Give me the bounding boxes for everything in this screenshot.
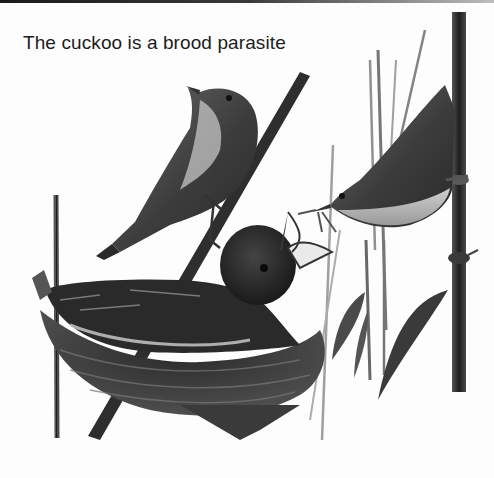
caption-text: The cuckoo is a brood parasite (23, 32, 286, 54)
left-reed (56, 195, 57, 438)
reed-warbler-perched (96, 86, 258, 260)
background-reeds (310, 30, 425, 440)
reed-warbler-feeding (298, 85, 468, 232)
illustration-frame: The cuckoo is a brood parasite (0, 0, 494, 478)
cuckoo-chick (32, 212, 332, 353)
brood-parasite-illustration (0, 0, 494, 478)
main-vertical-reed (448, 12, 478, 392)
reed-leaves (332, 290, 448, 400)
